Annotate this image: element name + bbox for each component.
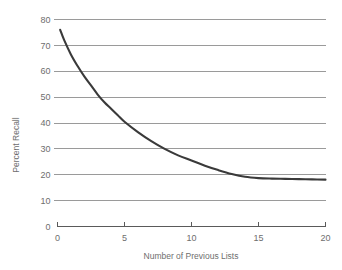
x-tick-label-10: 10	[186, 233, 196, 243]
y-tick-label-60: 60	[40, 66, 50, 76]
y-tick-label-50: 50	[40, 92, 50, 102]
recall-decay-chart: 01020304050607080 05101520 Percent Recal…	[0, 0, 342, 270]
y-tick-label-20: 20	[40, 170, 50, 180]
chart-background	[0, 0, 342, 270]
chart-svg: 01020304050607080 05101520 Percent Recal…	[0, 0, 342, 270]
x-tick-label-5: 5	[122, 233, 127, 243]
y-tick-label-70: 70	[40, 41, 50, 51]
y-tick-label-0: 0	[45, 222, 50, 232]
y-tick-label-40: 40	[40, 118, 50, 128]
y-axis-title-group: Percent Recall	[11, 117, 21, 172]
y-axis-title: Percent Recall	[11, 117, 21, 172]
x-tick-label-0: 0	[55, 233, 60, 243]
y-tick-label-30: 30	[40, 144, 50, 154]
x-tick-label-15: 15	[253, 233, 263, 243]
x-axis-title: Number of Previous Lists	[144, 251, 239, 261]
x-tick-label-20: 20	[320, 233, 330, 243]
y-tick-label-80: 80	[40, 15, 50, 25]
x-axis-title-group: Number of Previous Lists	[144, 251, 239, 261]
y-tick-label-10: 10	[40, 196, 50, 206]
